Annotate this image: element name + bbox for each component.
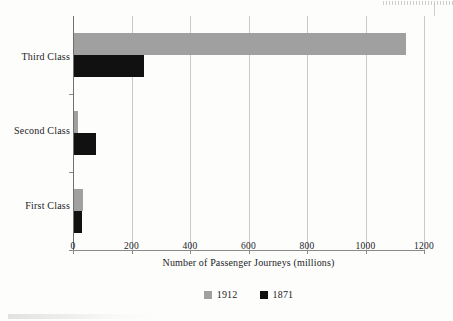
legend-label-1912: 1912 xyxy=(217,289,238,300)
bar-chart-figure: Third Class Second Class First Class 020… xyxy=(0,0,453,321)
category-label-second-class: Second Class xyxy=(14,125,70,136)
scan-artifact-mark xyxy=(434,4,435,16)
legend-label-1871: 1871 xyxy=(273,289,294,300)
x-tick-label-1000: 1000 xyxy=(356,241,376,251)
gridline-1200 xyxy=(424,16,425,250)
scan-artifact-strip xyxy=(383,1,453,5)
x-tick-label-0: 0 xyxy=(71,241,76,251)
category-label-third-class: Third Class xyxy=(21,51,70,62)
x-tick-label-600: 600 xyxy=(241,241,256,251)
legend-item-1871: 1871 xyxy=(260,289,294,300)
x-tick-label-400: 400 xyxy=(183,241,198,251)
chart-legend: 1912 1871 xyxy=(73,289,424,300)
y-tick-second-class xyxy=(69,94,73,95)
bar-1871-third-class xyxy=(74,55,144,77)
category-label-first-class: First Class xyxy=(25,200,70,211)
legend-item-1912: 1912 xyxy=(204,289,238,300)
legend-swatch-1871 xyxy=(260,291,268,299)
scan-smudge xyxy=(8,314,158,319)
bar-1912-third-class xyxy=(74,33,406,55)
bar-1912-first-class xyxy=(74,189,83,211)
bar-1871-first-class xyxy=(74,211,82,233)
x-tick-label-1200: 1200 xyxy=(414,241,434,251)
bar-1912-second-class xyxy=(74,111,78,133)
plot-area xyxy=(73,16,424,250)
x-tick-label-200: 200 xyxy=(124,241,139,251)
x-axis-title: Number of Passenger Journeys (millions) xyxy=(73,257,424,268)
legend-swatch-1912 xyxy=(204,291,212,299)
bar-1871-second-class xyxy=(74,133,96,155)
x-tick-label-800: 800 xyxy=(300,241,315,251)
y-tick-first-class xyxy=(69,172,73,173)
